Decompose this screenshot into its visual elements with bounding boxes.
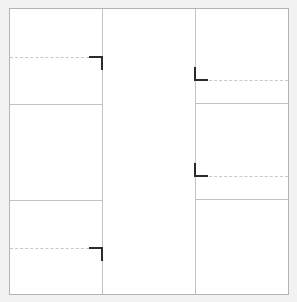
dashed-guide-left-1 bbox=[10, 57, 89, 58]
dashed-guide-right-1 bbox=[209, 80, 288, 81]
left-row-divider-1 bbox=[10, 104, 102, 105]
right-row-divider-1 bbox=[196, 103, 288, 104]
diagram-frame bbox=[9, 8, 289, 295]
right-row-divider-2 bbox=[196, 199, 288, 200]
column-divider-right bbox=[195, 9, 196, 294]
dashed-guide-right-2 bbox=[209, 176, 288, 177]
left-row-divider-2 bbox=[10, 200, 102, 201]
dashed-guide-left-2 bbox=[10, 248, 89, 249]
